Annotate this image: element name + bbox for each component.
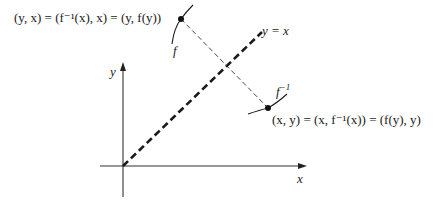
label-f-inverse-sup: −1	[280, 82, 291, 92]
label-bottom-point: (x, y) = (x, f⁻¹(x)) = (f(y), y)	[272, 113, 421, 126]
f-curve	[172, 5, 193, 44]
y-axis-arrow-icon	[120, 62, 126, 71]
label-y-equals-x: y = x	[262, 24, 289, 37]
point-top	[178, 16, 184, 22]
label-f: f	[173, 44, 177, 57]
diagonal-line-y-equals-x	[123, 32, 262, 166]
x-axis-arrow-icon	[298, 163, 307, 169]
label-y-axis: y	[110, 65, 116, 78]
point-bottom	[265, 105, 271, 111]
label-f-inverse: f−1	[276, 85, 290, 98]
reflection-connector-line	[181, 19, 268, 108]
diagram-canvas	[0, 0, 438, 207]
label-top-point: (y, x) = (f⁻¹(x), x) = (y, f(y))	[14, 11, 161, 24]
label-x-axis: x	[297, 172, 303, 185]
